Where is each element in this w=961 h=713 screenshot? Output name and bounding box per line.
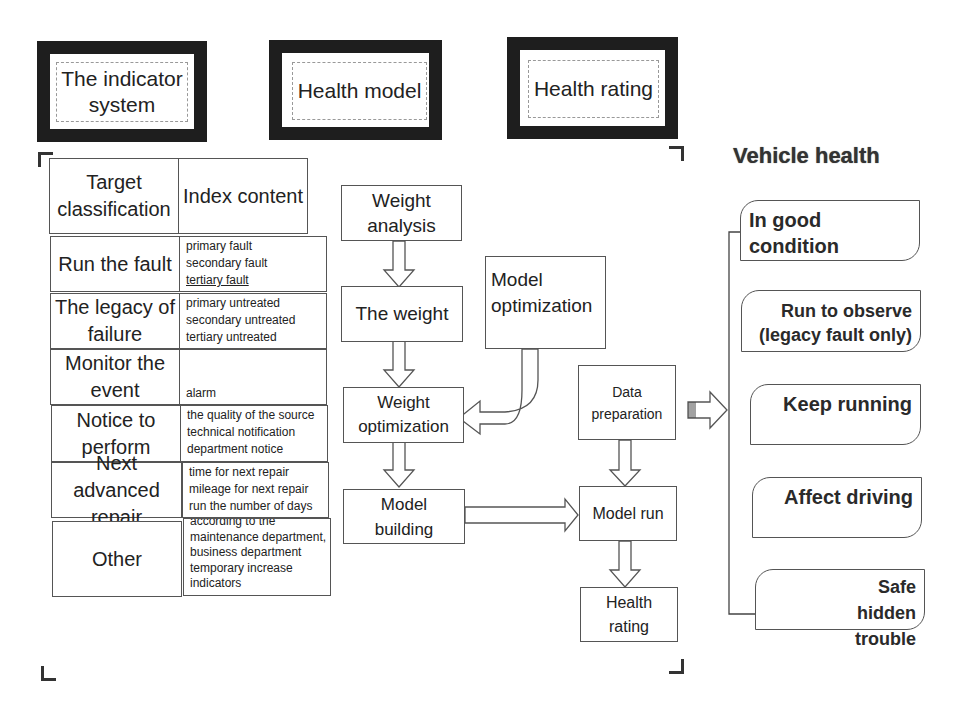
arrow-down-icon bbox=[384, 441, 414, 487]
the-weight-box: The weight bbox=[341, 286, 463, 342]
arrow-down-icon bbox=[384, 340, 414, 387]
state-in-good-condition: In good condition bbox=[740, 200, 920, 261]
arrow-down-icon bbox=[610, 440, 640, 486]
arrow-right-icon bbox=[465, 499, 578, 531]
state-safe-hidden-trouble: Safe hidden trouble bbox=[755, 569, 925, 630]
curved-arrow-icon bbox=[459, 349, 538, 434]
data-preparation-box: Data preparation bbox=[578, 365, 676, 440]
weight-optimization-box: Weight optimization bbox=[343, 387, 464, 443]
model-optimization-box: Model optimization bbox=[485, 256, 606, 349]
arrow-down-icon bbox=[610, 541, 640, 587]
model-optimization-label: Model optimization bbox=[491, 267, 600, 319]
state-run-to-observe: Run to observe (legacy fault only) bbox=[741, 290, 921, 352]
arrow-right-icon bbox=[688, 392, 727, 428]
weight-analysis-box: Weight analysis bbox=[341, 185, 462, 241]
health-rating-box: Health rating bbox=[580, 587, 678, 642]
arrow-down-icon bbox=[384, 241, 414, 287]
state-keep-running: Keep running bbox=[750, 384, 921, 445]
state-affect-driving: Affect driving bbox=[752, 477, 922, 538]
model-run-box: Model run bbox=[579, 486, 677, 541]
vehicle-health-title: Vehicle health bbox=[733, 143, 880, 169]
model-building-box: Model building bbox=[343, 489, 465, 544]
